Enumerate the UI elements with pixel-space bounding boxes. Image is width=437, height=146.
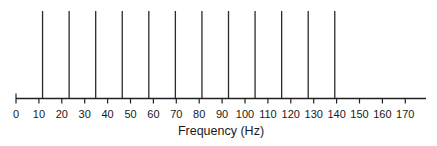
x-tick-label: 100: [236, 108, 254, 120]
x-tick-label: 70: [170, 108, 182, 120]
x-tick-label: 170: [396, 108, 414, 120]
x-tick-label: 40: [101, 108, 113, 120]
x-tick-label: 30: [79, 108, 91, 120]
x-tick-label: 150: [350, 108, 368, 120]
x-tick-label: 20: [56, 108, 68, 120]
x-tick-label: 160: [373, 108, 391, 120]
x-tick-label: 0: [13, 108, 19, 120]
x-axis-title: Frequency (Hz): [178, 124, 264, 138]
x-tick-label: 110: [259, 108, 277, 120]
x-tick-label: 50: [124, 108, 136, 120]
x-tick-label: 80: [193, 108, 205, 120]
x-axis-tick-labels: 0102030405060708090100110120130140150160…: [13, 108, 415, 120]
x-tick-label: 10: [33, 108, 45, 120]
spectral-lines: [43, 11, 335, 99]
spectrum-chart: 0102030405060708090100110120130140150160…: [0, 0, 437, 146]
x-tick-label: 130: [305, 108, 323, 120]
x-tick-label: 140: [327, 108, 345, 120]
x-tick-label: 60: [147, 108, 159, 120]
x-tick-label: 90: [216, 108, 228, 120]
x-tick-label: 120: [282, 108, 300, 120]
